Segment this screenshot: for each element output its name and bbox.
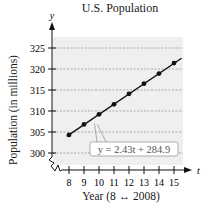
- data-point: [82, 122, 87, 127]
- y-axis-var: y: [49, 10, 55, 21]
- data-point: [67, 133, 72, 138]
- x-tick-label: 8: [67, 177, 72, 188]
- x-tick-label: 10: [94, 177, 104, 188]
- x-tick-label: 13: [139, 177, 149, 188]
- data-point: [112, 102, 117, 107]
- y-tick-label: 310: [30, 106, 45, 117]
- x-tick-label: 15: [169, 177, 179, 188]
- equation-annotation: y = 2.43t + 284.9: [98, 144, 171, 155]
- data-point: [157, 71, 162, 76]
- y-tick-label: 320: [30, 64, 45, 75]
- data-point: [172, 61, 177, 66]
- y-tick-label: 300: [30, 148, 45, 159]
- x-tick-label: 9: [82, 177, 87, 188]
- y-axis-arrow-icon: [49, 22, 55, 30]
- data-point: [97, 112, 102, 117]
- data-point: [127, 91, 132, 96]
- y-tick-label: 315: [30, 85, 45, 96]
- x-tick-label: 14: [154, 177, 164, 188]
- data-point: [142, 81, 147, 86]
- x-tick-label: 12: [124, 177, 134, 188]
- chart: U.S. Population Population (in millions)…: [0, 0, 204, 212]
- x-axis-var: t: [197, 165, 200, 176]
- x-axis-arrow-icon: [184, 167, 192, 173]
- plot-area: y300305310315320325t89101112131415y = 2.…: [0, 0, 204, 212]
- y-tick-label: 305: [30, 127, 45, 138]
- x-tick-label: 11: [109, 177, 119, 188]
- y-tick-label: 325: [30, 43, 45, 54]
